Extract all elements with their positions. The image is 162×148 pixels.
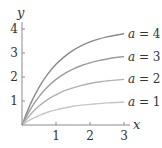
series-layer [22, 34, 124, 125]
y-axis-label: y [16, 5, 25, 20]
line-chart: 1231234 y x a = 4a = 3a = 2a = 1 [0, 0, 162, 148]
series-line [22, 102, 124, 125]
x-axis-label: x [133, 117, 141, 132]
y-tick-label: 2 [10, 70, 18, 84]
y-tick-label: 1 [10, 94, 18, 108]
series-label: a = 1 [128, 95, 160, 109]
y-tick-label: 4 [10, 22, 18, 36]
series-line [22, 34, 124, 125]
series-label: a = 4 [128, 27, 161, 41]
axes [22, 22, 130, 125]
series-label: a = 2 [128, 72, 160, 86]
x-tick-label: 1 [52, 129, 60, 143]
x-tick-label: 2 [86, 129, 94, 143]
x-tick-label: 3 [120, 129, 128, 143]
series-label: a = 3 [128, 50, 160, 64]
y-tick-label: 3 [10, 46, 18, 60]
series-labels: a = 4a = 3a = 2a = 1 [128, 27, 161, 109]
